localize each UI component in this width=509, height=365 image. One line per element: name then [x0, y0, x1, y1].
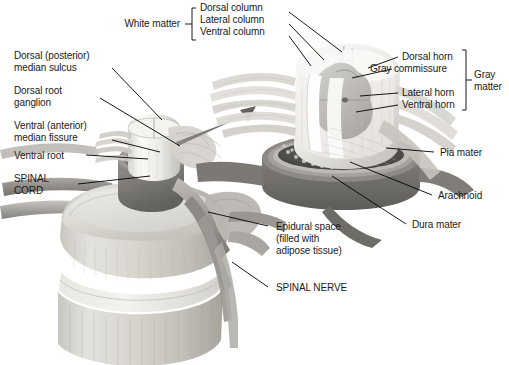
label-dorsal-horn: Dorsal horn [402, 51, 453, 63]
label-lateral-horn: Lateral horn [402, 87, 454, 99]
label-pia-mater: Pia mater [440, 147, 482, 159]
label-ventral-median-fissure-line1: Ventral (anterior) [14, 120, 87, 132]
label-spinal-cord-line1: SPINAL [14, 173, 49, 185]
label-ventral-median-fissure-line2: median fissure [14, 132, 78, 144]
label-spinal-cord-line2: CORD [14, 185, 43, 197]
label-gray-matter-line2: matter [474, 81, 502, 93]
label-ventral-column: Ventral column [200, 26, 265, 38]
label-dorsal-median-sulcus-line1: Dorsal (posterior) [14, 50, 89, 62]
label-dorsal-root-ganglion-line2: ganglion [14, 97, 51, 109]
spinal-cord-diagram: White matter Dorsal column Lateral colum… [0, 0, 509, 365]
label-epidural-space-line2: (filled with [276, 233, 319, 245]
label-ventral-root: Ventral root [14, 150, 64, 162]
label-spinal-nerve: SPINAL NERVE [276, 282, 347, 294]
label-epidural-space-line1: Epidural space [276, 221, 341, 233]
label-gray-commissure: Gray commissure [370, 63, 447, 75]
label-dorsal-column: Dorsal column [200, 2, 263, 14]
label-lateral-column: Lateral column [200, 14, 264, 26]
label-epidural-space-line3: adipose tissue) [276, 245, 342, 257]
label-dorsal-median-sulcus-line2: median sulcus [14, 62, 77, 74]
label-dura-mater: Dura mater [412, 219, 461, 231]
label-arachnoid: Arachnoid [438, 190, 482, 202]
label-gray-matter-line1: Gray [474, 69, 495, 81]
label-white-matter: White matter [84, 18, 180, 30]
label-dorsal-root-ganglion-line1: Dorsal root [14, 85, 62, 97]
label-ventral-horn: Ventral horn [402, 99, 455, 111]
